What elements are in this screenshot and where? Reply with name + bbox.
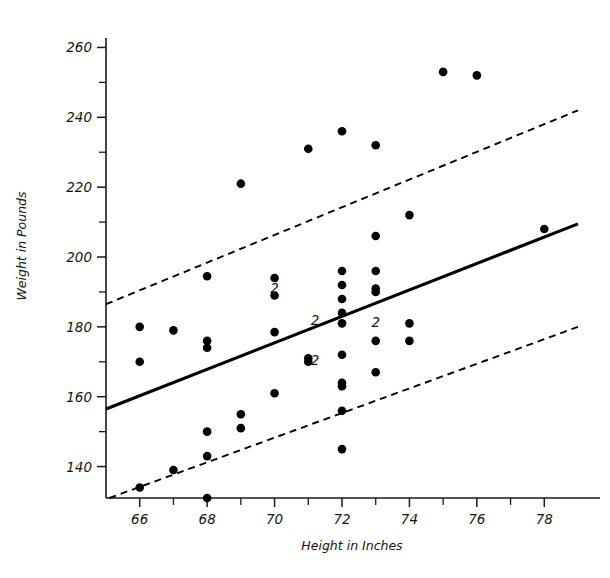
data-point bbox=[304, 144, 313, 153]
x-tick-label: 68 bbox=[199, 511, 216, 527]
x-tick-label: 66 bbox=[131, 511, 148, 527]
overlap-count-label: 2 bbox=[371, 314, 380, 330]
y-tick-label: 140 bbox=[66, 459, 92, 475]
data-point bbox=[338, 406, 347, 415]
data-point bbox=[338, 281, 347, 290]
data-point bbox=[540, 225, 549, 234]
axes-layer: 14016018020022024026066687072747678 bbox=[66, 38, 600, 527]
data-point bbox=[338, 309, 347, 318]
data-points-layer bbox=[135, 68, 548, 503]
data-point bbox=[371, 337, 380, 346]
data-point bbox=[405, 337, 414, 346]
data-point bbox=[338, 127, 347, 136]
x-tick-label: 70 bbox=[266, 511, 283, 527]
overlap-count-label: 2 bbox=[311, 312, 320, 328]
data-point bbox=[338, 267, 347, 276]
plot-canvas: 14016018020022024026066687072747678 2222… bbox=[0, 0, 610, 578]
y-axis-title: Weight in Pounds bbox=[14, 191, 29, 301]
overlap-count-label: 2 bbox=[311, 352, 320, 368]
data-point bbox=[371, 232, 380, 241]
y-tick-label: 160 bbox=[66, 389, 92, 405]
x-tick-label: 72 bbox=[333, 511, 350, 527]
data-point bbox=[338, 445, 347, 454]
x-tick-label: 76 bbox=[468, 511, 485, 527]
overlap-count-label: 2 bbox=[270, 280, 279, 296]
data-point bbox=[371, 141, 380, 150]
data-point bbox=[135, 483, 144, 492]
y-tick-label: 260 bbox=[66, 39, 92, 55]
data-point bbox=[203, 427, 212, 436]
data-point bbox=[338, 351, 347, 360]
y-tick-label: 180 bbox=[66, 319, 92, 335]
data-point bbox=[237, 424, 246, 433]
data-point bbox=[338, 382, 347, 391]
data-point bbox=[405, 319, 414, 328]
data-point bbox=[439, 68, 448, 77]
y-tick-label: 240 bbox=[66, 109, 92, 125]
data-point bbox=[135, 323, 144, 332]
y-tick-label: 200 bbox=[66, 249, 92, 265]
data-point bbox=[270, 328, 279, 337]
data-point bbox=[203, 272, 212, 281]
data-point bbox=[169, 466, 178, 475]
y-tick-label: 220 bbox=[66, 179, 92, 195]
data-point bbox=[371, 288, 380, 297]
interval-lines-layer bbox=[106, 110, 578, 498]
data-point bbox=[338, 295, 347, 304]
data-point bbox=[135, 357, 144, 366]
x-axis-title: Height in Inches bbox=[301, 538, 403, 553]
data-point bbox=[237, 179, 246, 188]
x-tick-label: 74 bbox=[401, 511, 418, 527]
scatter-plot-figure: 14016018020022024026066687072747678 2222… bbox=[0, 0, 610, 578]
data-point bbox=[338, 319, 347, 328]
data-point bbox=[405, 211, 414, 220]
data-point bbox=[270, 389, 279, 398]
data-point bbox=[169, 326, 178, 335]
data-point bbox=[473, 71, 482, 80]
data-point bbox=[371, 267, 380, 276]
data-point bbox=[203, 494, 212, 503]
data-point bbox=[371, 368, 380, 377]
data-point bbox=[237, 410, 246, 419]
data-point bbox=[203, 452, 212, 461]
x-tick-label: 78 bbox=[536, 511, 553, 527]
data-point bbox=[203, 344, 212, 353]
